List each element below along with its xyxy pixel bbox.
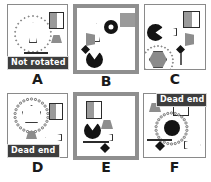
panel-b-letter: B <box>73 74 139 88</box>
black-diamond-icon <box>100 143 110 153</box>
panel-d-label: Dead end <box>7 144 60 158</box>
white-arrow-left-icon <box>160 28 177 36</box>
dark-bar-icon <box>24 52 48 54</box>
panel-f-label: Dead end <box>156 93 207 107</box>
panel-a[interactable]: Not rotated <box>7 4 68 70</box>
panel-b-stage <box>77 8 135 70</box>
panel-c-letter: C <box>144 72 206 86</box>
panel-c-stage <box>145 5 205 69</box>
gray-trapezoid-flag-icon <box>185 33 194 46</box>
black-pacman-icon <box>147 24 164 41</box>
half-gray-square-icon <box>49 12 64 29</box>
gray-half-square-icon <box>120 13 135 27</box>
panel-f-letter: F <box>143 160 206 174</box>
gray-stick-icon <box>180 53 182 65</box>
half-gray-square-icon <box>86 101 102 119</box>
panel-e-letter: E <box>73 160 139 174</box>
panel-d-letter: D <box>7 160 68 174</box>
figure-panel-grid: Not rotated A B C <box>0 0 211 182</box>
panel-f[interactable]: Dead end <box>143 93 206 158</box>
dark-bar-icon <box>147 139 172 141</box>
black-donut-icon <box>104 20 118 34</box>
gray-trapezoid-icon <box>101 120 113 129</box>
panel-c[interactable] <box>144 4 206 70</box>
panel-a-letter: A <box>7 72 68 86</box>
black-pacman-icon <box>86 51 103 68</box>
panel-a-label: Not rotated <box>7 56 69 70</box>
panel-b[interactable] <box>73 4 139 74</box>
panel-d[interactable]: Dead end <box>7 93 68 158</box>
dark-bar-icon <box>83 141 109 143</box>
white-arrow-right-icon <box>184 141 201 149</box>
panel-e[interactable] <box>73 92 139 160</box>
panel-e-stage <box>77 96 135 156</box>
black-circle-icon <box>164 120 180 136</box>
half-gray-square-icon <box>49 103 63 120</box>
black-pacman-icon <box>84 122 101 139</box>
gray-trapezoid-icon <box>86 33 95 46</box>
half-gray-square-icon <box>183 11 200 28</box>
white-arrow-left-icon <box>45 134 62 141</box>
